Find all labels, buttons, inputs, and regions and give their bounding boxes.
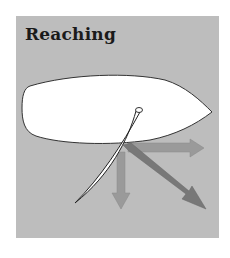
mast [136,108,143,113]
boat-hull [22,75,212,143]
sideways-force-arrow [112,152,130,209]
reaching-diagram [0,0,230,258]
